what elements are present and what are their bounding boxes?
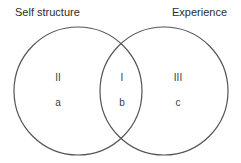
region-i-letter: b bbox=[119, 98, 125, 108]
region-i-numeral: I bbox=[121, 73, 124, 83]
self-structure-circle bbox=[14, 27, 142, 155]
experience-title: Experience bbox=[172, 7, 227, 18]
region-iii-numeral: III bbox=[174, 73, 182, 83]
region-ii-letter: a bbox=[55, 98, 61, 108]
venn-diagram: Self structure Experience II a I b III c bbox=[0, 0, 241, 163]
experience-circle bbox=[100, 27, 228, 155]
self-structure-title: Self structure bbox=[15, 7, 80, 18]
region-ii-numeral: II bbox=[55, 73, 61, 83]
region-iii-letter: c bbox=[176, 98, 181, 108]
